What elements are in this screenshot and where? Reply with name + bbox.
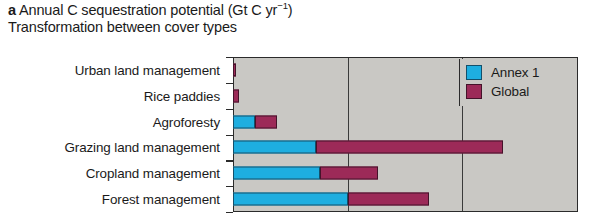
figure-title-block: a Annual C sequestration potential (Gt C… bbox=[8, 2, 598, 36]
panel-letter: a bbox=[8, 2, 16, 18]
title-text-post: ) bbox=[288, 2, 293, 18]
y-axis-label-rice-paddies: Rice paddies bbox=[144, 88, 220, 103]
legend-label: Annex 1 bbox=[491, 65, 539, 80]
legend-label: Global bbox=[491, 84, 529, 99]
title-main-text: Annual C sequestration potential (Gt C y… bbox=[19, 2, 277, 18]
y-axis-tick-3 bbox=[226, 135, 233, 136]
y-axis-tick-1 bbox=[226, 83, 233, 84]
figure-panel-a: a Annual C sequestration potential (Gt C… bbox=[0, 0, 604, 216]
y-axis-tick-4 bbox=[226, 160, 233, 161]
legend-swatch-annex-1 bbox=[466, 65, 482, 80]
figure-subtitle: Transformation between cover types bbox=[8, 19, 598, 36]
y-axis-label-cropland-management: Cropland management bbox=[86, 166, 220, 181]
legend-row: Global bbox=[466, 82, 571, 101]
y-axis-label-agroforesty: Agroforesty bbox=[153, 114, 220, 129]
y-axis-label-forest-management: Forest management bbox=[102, 192, 220, 207]
figure-title-line-1: a Annual C sequestration potential (Gt C… bbox=[8, 2, 598, 19]
gridline-1 bbox=[348, 58, 349, 211]
y-axis-tick-2 bbox=[226, 109, 233, 110]
y-axis-tick-6 bbox=[226, 212, 233, 213]
chart-legend: Annex 1Global bbox=[459, 59, 577, 106]
legend-swatch-global bbox=[466, 84, 482, 99]
y-axis-label-urban-land-management: Urban land management bbox=[75, 62, 220, 77]
y-axis-label-grazing-land-management: Grazing land management bbox=[64, 140, 220, 155]
y-axis-tick-0 bbox=[226, 57, 233, 58]
y-axis-tick-5 bbox=[226, 186, 233, 187]
y-axis-category-labels: Urban land managementRice paddiesAgrofor… bbox=[0, 57, 228, 212]
legend-row: Annex 1 bbox=[466, 63, 571, 82]
title-superscript: −1 bbox=[277, 0, 288, 11]
